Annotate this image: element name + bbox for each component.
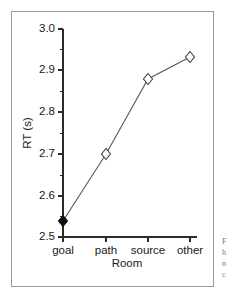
data-series-line [63,57,190,221]
caption-line: c [222,269,239,280]
figure-container: 3.0 2.9 2.8 2.7 2.6 2.5 goal path source… [0,0,239,298]
data-point-marker-goal [59,216,68,227]
y-tick-label: 3.0 [39,22,55,34]
y-tick-label: 2.7 [39,147,55,159]
y-axis-title: RT (s) [21,117,33,149]
data-point-marker-other [186,52,195,63]
caption-fragment: F h n c [222,236,239,288]
line-chart: 3.0 2.9 2.8 2.7 2.6 2.5 goal path source… [0,0,239,298]
y-tick-label: 2.6 [39,189,55,201]
data-point-marker-path [102,149,111,160]
data-point-marker-source [144,74,153,85]
caption-line: n [222,258,239,269]
x-tick-label: source [131,244,166,256]
x-tick-label: path [95,244,117,256]
x-tick-label: other [177,244,203,256]
x-axis-ticks [63,237,190,242]
caption-line: F [222,236,239,247]
y-tick-label: 2.8 [39,105,55,117]
x-tick-label: goal [52,244,74,256]
caption-line: h [222,247,239,258]
x-axis-title: Room [112,257,143,269]
y-tick-label: 2.5 [39,230,55,242]
y-tick-label: 2.9 [39,63,55,75]
